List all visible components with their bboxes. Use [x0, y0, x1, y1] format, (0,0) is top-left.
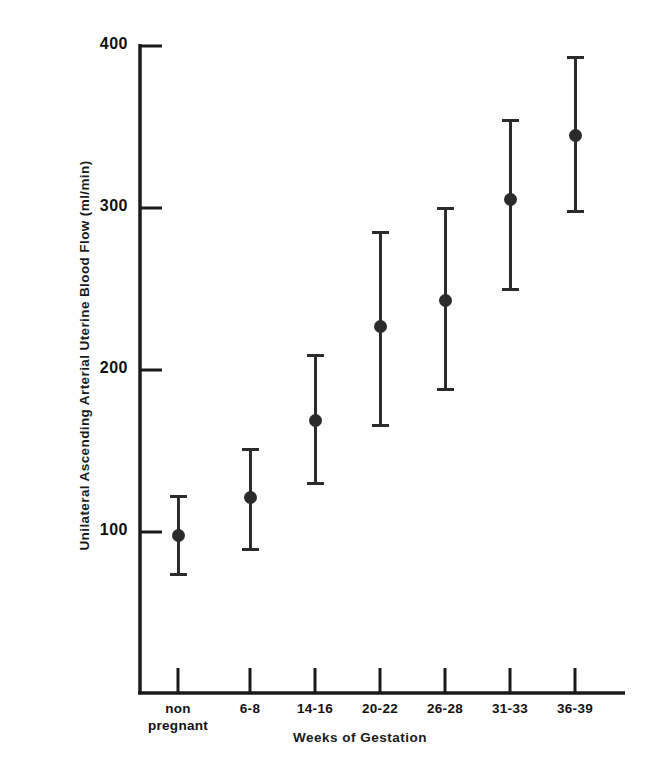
- y-tick-label-200: 200: [68, 359, 128, 377]
- data-point-marker: [172, 529, 185, 542]
- error-bar-cap-lower: [242, 548, 259, 551]
- y-tick-label-300: 300: [68, 197, 128, 215]
- error-bar-cap-upper: [567, 56, 584, 59]
- y-tick-label-400: 400: [68, 35, 128, 53]
- error-bar-cap-lower: [437, 388, 454, 391]
- error-bar-cap-upper: [242, 448, 259, 451]
- error-bar-cap-upper: [502, 119, 519, 122]
- error-bar-cap-upper: [437, 207, 454, 210]
- error-bar-cap-lower: [307, 482, 324, 485]
- data-point-marker: [244, 491, 257, 504]
- x-axis-title: Weeks of Gestation: [110, 730, 610, 745]
- y-tick-label-100: 100: [68, 521, 128, 539]
- data-point-marker: [569, 129, 582, 142]
- chart-figure: Unilateral Ascending Arterial Uterine Bl…: [0, 0, 646, 771]
- data-point-marker: [504, 193, 517, 206]
- x-tick-label-36-39: 36-39: [520, 700, 630, 717]
- error-bar-cap-upper: [372, 231, 389, 234]
- error-bar-cap-upper: [307, 354, 324, 357]
- error-bar-cap-lower: [170, 573, 187, 576]
- error-bar-cap-upper: [170, 495, 187, 498]
- axes-lines: [0, 0, 646, 771]
- error-bar-cap-lower: [502, 288, 519, 291]
- data-point-marker: [439, 294, 452, 307]
- error-bar-cap-lower: [567, 210, 584, 213]
- data-point-marker: [374, 320, 387, 333]
- error-bar-cap-lower: [372, 424, 389, 427]
- data-point-marker: [309, 414, 322, 427]
